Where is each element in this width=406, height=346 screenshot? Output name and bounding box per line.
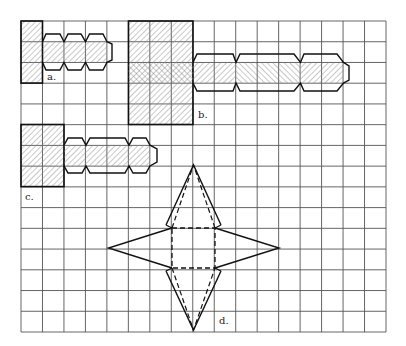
label-c: c. <box>25 191 34 202</box>
net-a: a. <box>21 21 112 83</box>
net-c: c. <box>21 125 157 203</box>
label-a: a. <box>47 71 56 82</box>
nets-diagram: a. b. c. d. <box>0 0 406 346</box>
net-b: b. <box>129 21 350 125</box>
label-b: b. <box>198 109 208 120</box>
label-d: d. <box>219 315 229 326</box>
net-d: d. <box>109 165 280 330</box>
